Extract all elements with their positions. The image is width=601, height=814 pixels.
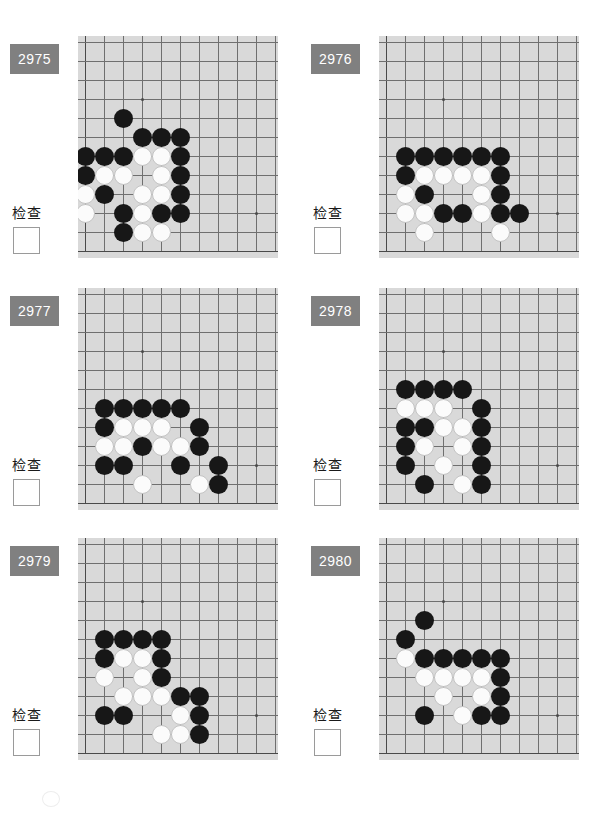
grid-line-vertical bbox=[218, 36, 219, 251]
black-stone bbox=[472, 706, 491, 725]
grid-line-horizontal bbox=[379, 294, 579, 295]
go-board[interactable] bbox=[78, 538, 278, 760]
black-stone bbox=[396, 380, 415, 399]
go-board[interactable] bbox=[379, 288, 579, 510]
grid-line-horizontal bbox=[78, 332, 278, 333]
star-point bbox=[556, 464, 559, 467]
white-stone bbox=[415, 166, 434, 185]
footer-circle-mark bbox=[42, 791, 60, 807]
white-stone bbox=[133, 223, 152, 242]
black-stone bbox=[190, 437, 209, 456]
problem-panel: 2978检查 bbox=[311, 288, 583, 520]
black-stone bbox=[491, 706, 510, 725]
white-stone bbox=[133, 147, 152, 166]
black-stone bbox=[434, 147, 453, 166]
black-stone bbox=[491, 147, 510, 166]
grid-line-horizontal bbox=[379, 563, 579, 564]
star-point bbox=[255, 714, 258, 717]
white-stone bbox=[95, 668, 114, 687]
white-stone bbox=[472, 204, 491, 223]
white-stone bbox=[472, 185, 491, 204]
grid-line-horizontal bbox=[379, 80, 579, 81]
white-stone bbox=[415, 399, 434, 418]
grid-line-vertical bbox=[275, 36, 276, 251]
grid-line-horizontal bbox=[379, 251, 579, 252]
grid-line-horizontal bbox=[78, 620, 278, 621]
problem-panel: 2977检查 bbox=[10, 288, 282, 520]
star-point bbox=[141, 350, 144, 353]
grid-line-horizontal bbox=[379, 232, 579, 233]
worksheet-page: 2975检查2976检查2977检查2978检查2979检查2980检查 bbox=[0, 0, 601, 814]
grid-line-vertical bbox=[576, 288, 577, 503]
check-label: 检查 bbox=[12, 202, 42, 222]
black-stone bbox=[491, 649, 510, 668]
grid-line-horizontal bbox=[78, 503, 278, 504]
black-stone bbox=[415, 185, 434, 204]
problem-number-badge: 2977 bbox=[10, 296, 59, 326]
check-label: 检查 bbox=[313, 202, 343, 222]
black-stone bbox=[510, 204, 529, 223]
check-checkbox[interactable] bbox=[13, 227, 40, 254]
black-stone bbox=[453, 380, 472, 399]
check-checkbox[interactable] bbox=[314, 729, 341, 756]
white-stone bbox=[171, 725, 190, 744]
white-stone bbox=[415, 204, 434, 223]
black-stone bbox=[133, 128, 152, 147]
black-stone bbox=[114, 147, 133, 166]
star-point bbox=[442, 98, 445, 101]
grid-line-horizontal bbox=[379, 734, 579, 735]
black-stone bbox=[152, 399, 171, 418]
go-board[interactable] bbox=[78, 36, 278, 258]
grid-line-horizontal bbox=[78, 601, 278, 602]
check-checkbox[interactable] bbox=[13, 729, 40, 756]
grid-line-horizontal bbox=[379, 351, 579, 352]
white-stone bbox=[114, 166, 133, 185]
go-board[interactable] bbox=[379, 36, 579, 258]
star-point bbox=[442, 600, 445, 603]
grid-line-vertical bbox=[538, 538, 539, 753]
black-stone bbox=[415, 418, 434, 437]
go-board[interactable] bbox=[379, 538, 579, 760]
grid-line-horizontal bbox=[78, 753, 278, 754]
grid-line-vertical bbox=[275, 288, 276, 503]
white-stone bbox=[453, 437, 472, 456]
black-stone bbox=[95, 456, 114, 475]
black-stone bbox=[152, 128, 171, 147]
grid-line-horizontal bbox=[78, 251, 278, 252]
grid-line-horizontal bbox=[78, 42, 278, 43]
check-checkbox[interactable] bbox=[13, 479, 40, 506]
white-stone bbox=[152, 418, 171, 437]
black-stone bbox=[95, 399, 114, 418]
grid-line-vertical bbox=[237, 36, 238, 251]
white-stone bbox=[114, 437, 133, 456]
black-stone bbox=[78, 166, 95, 185]
black-stone bbox=[114, 204, 133, 223]
grid-line-horizontal bbox=[78, 544, 278, 545]
white-stone bbox=[114, 687, 133, 706]
black-stone bbox=[472, 649, 491, 668]
grid-line-vertical bbox=[557, 288, 558, 503]
grid-line-vertical bbox=[256, 288, 257, 503]
check-checkbox[interactable] bbox=[314, 479, 341, 506]
black-stone bbox=[415, 611, 434, 630]
go-board[interactable] bbox=[78, 288, 278, 510]
grid-line-vertical bbox=[538, 36, 539, 251]
black-stone bbox=[434, 204, 453, 223]
white-stone bbox=[152, 437, 171, 456]
grid-line-horizontal bbox=[379, 503, 579, 504]
black-stone bbox=[453, 649, 472, 668]
black-stone bbox=[95, 418, 114, 437]
white-stone bbox=[415, 223, 434, 242]
check-checkbox[interactable] bbox=[314, 227, 341, 254]
grid-line-horizontal bbox=[78, 389, 278, 390]
black-stone bbox=[396, 166, 415, 185]
star-point bbox=[442, 350, 445, 353]
grid-line-horizontal bbox=[78, 351, 278, 352]
black-stone bbox=[133, 630, 152, 649]
grid-line-vertical bbox=[199, 36, 200, 251]
white-stone bbox=[95, 437, 114, 456]
grid-line-vertical bbox=[557, 36, 558, 251]
grid-line-vertical bbox=[237, 538, 238, 753]
grid-line-vertical bbox=[161, 288, 162, 503]
grid-line-horizontal bbox=[78, 232, 278, 233]
